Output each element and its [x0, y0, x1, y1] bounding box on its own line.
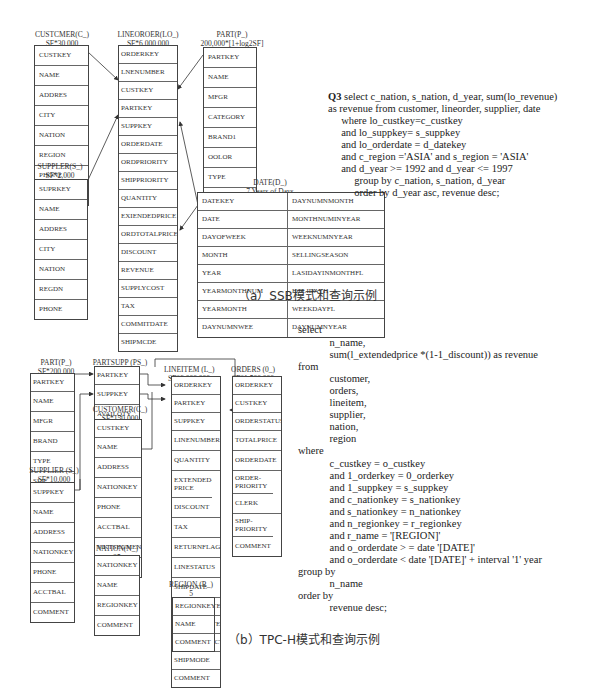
field: ORDTOTALPRICE [119, 226, 177, 244]
field: SUPRKEY [35, 180, 87, 200]
field: ADDRESS [31, 523, 74, 543]
field: ADDRESS [95, 458, 141, 478]
field: QUANTITY [119, 190, 177, 208]
ssb-supplier-title: SUPPLER(S_)SF*2,000 [30, 162, 90, 180]
field: ORDERKEY [233, 377, 281, 395]
field: CATEGORY [204, 108, 256, 128]
field: COMMENT [173, 634, 214, 651]
field: NAME [204, 68, 256, 88]
tpch-region-title: REGION (R_)5 [166, 580, 216, 598]
sql-line: order by d_year asc, revenue desc; [328, 187, 499, 199]
caption-b: （b）TPC-H模式和查询示例 [228, 630, 380, 647]
field: ACCTBAL [31, 583, 74, 603]
field: SELLINGSEASON [288, 247, 384, 265]
sql-line: and 1_orderkey = 0_orderkey [298, 470, 454, 482]
caption-a: （a）SSB模式和查询示例 [238, 286, 377, 303]
field: DATEKEY [198, 193, 288, 211]
field: PHONE [35, 300, 87, 319]
sql-line: select [298, 324, 322, 336]
sql-line: sum(l_extendedprice *(1-1_discount)) as … [298, 349, 538, 361]
field: NAME [35, 66, 88, 86]
field: DISCOUNT [172, 498, 220, 518]
field: ORDER-PRIORITY [233, 471, 273, 494]
field: NAME [35, 200, 87, 220]
sql-line: n_name, [298, 337, 365, 349]
field: NATIONKEY [95, 556, 139, 576]
field: ACCTBAL [95, 518, 141, 538]
field: TOTALPRICE [233, 431, 281, 451]
field: REGIONKEY [95, 596, 139, 616]
field: CUSTKEY [233, 395, 281, 413]
sql-line: from [298, 361, 318, 373]
field: DAYOFWEEK [198, 229, 288, 247]
ssb-lineorder-table: ORDERKEY LNENUMBER CUSTKEY PARTKEY SUPPK… [118, 45, 178, 352]
field: PARTKEY [172, 395, 220, 413]
field: OOLOR [204, 148, 256, 168]
field: MONTH [198, 247, 288, 265]
field: PARTKEY [204, 48, 256, 68]
field: PHONE [95, 498, 141, 518]
sql-line: and c_nationkey = s_nationkey [298, 494, 461, 506]
ssb-part-title: PART(P_)200,000*[1+log2SF] [196, 30, 268, 48]
field: DATE [198, 211, 288, 229]
field: MFGR [31, 412, 74, 432]
query-label: Q3 [328, 91, 341, 102]
field: SUPPKEY [119, 118, 177, 136]
sql-line: and n_regionkey = r_regionkey [298, 518, 462, 530]
field: CUSTKEY [95, 420, 141, 438]
field: NATIONKEY [95, 478, 141, 498]
field: COMMENT [172, 670, 220, 687]
field: SUPPLYCOST [119, 280, 177, 298]
field: PHONE [31, 563, 74, 583]
field: EXIENDEDPRICE [119, 208, 177, 226]
field: ORDERKEY [172, 377, 220, 395]
field: LNENUMBER [119, 64, 177, 82]
ssb-date-table: DATEKEY DAYNUMNMONTH DATE MONTHNUMINYEAR… [197, 192, 385, 338]
field: ORDERKEY [119, 46, 177, 64]
field: COMMENT [233, 537, 281, 556]
field: COMMENT [31, 603, 74, 622]
field: NATIONKEY [31, 543, 74, 563]
field: NAME [31, 392, 74, 412]
sql-line: and 1_suppkey = s_suppkey [298, 482, 448, 494]
field: DISCOUNT [119, 244, 177, 262]
sql-line: where lo_custkey=c_custkey [328, 115, 463, 127]
field: SHIPMODE [172, 652, 220, 670]
sql-line: group by [298, 566, 336, 578]
field: SHIPPRIORITY [119, 172, 177, 190]
sql-line: n_name [298, 578, 363, 590]
field: LASIDAYINMONTHFL [288, 265, 384, 283]
sql-line: and lo_orderdate = d_datekey [328, 139, 466, 151]
field: SUPPKEY [95, 385, 139, 405]
field: YEAR [198, 265, 288, 283]
field: PARTKEY [95, 367, 139, 385]
sql-line: and s_nationkey = n_nationkey [298, 506, 461, 518]
field: SUPPKEY [172, 413, 220, 431]
field: COMMENT [95, 616, 139, 635]
sql-line: and d_year >= 1992 and d_year <= 1997 [328, 163, 513, 175]
tpch-nation-table: NATIONKEY NAME REGIONKEY COMMENT [94, 555, 140, 636]
sql-line: and lo_suppkey= s_suppkey [328, 127, 460, 139]
tpch-region-table: REGIONKEY NAME COMMENT [172, 597, 215, 652]
sql-line: lineitem, [298, 397, 367, 409]
field: REGDN [35, 280, 87, 300]
sql-line: and o_orderdate < date '[DATE]' + interv… [298, 554, 542, 566]
field: ORDERDATE [119, 136, 177, 154]
field: SHIP-PRIORITY [233, 514, 273, 537]
field: ADDRES [35, 220, 87, 240]
field: WEEKNUMNYEAR [288, 229, 384, 247]
sql-line: as revenue from customer, lineorder, sup… [328, 103, 540, 115]
field: NAME [95, 576, 139, 596]
field: CITY [35, 240, 87, 260]
field: MONTHNUMINYEAR [288, 211, 384, 229]
field: NAME [95, 438, 141, 458]
sql-line: where [298, 445, 324, 457]
sql-line: group by c_nation, s_nation, d_year [328, 175, 505, 187]
field: DAYNUMNWEE [198, 319, 288, 337]
tpch-orders-table: ORDERKEY CUSTKEY ORDERSTATUS TOTALPRICE … [232, 376, 282, 557]
field: PARTKEY [31, 374, 74, 392]
ssb-supplier-table: SUPRKEY NAME ADDRES CITY NATION REGDN PH… [34, 179, 88, 320]
field: PARTKEY [119, 100, 177, 118]
field: MFGR [204, 88, 256, 108]
sql-line: select c_nation, s_nation, d_year, sum(l… [341, 91, 557, 102]
